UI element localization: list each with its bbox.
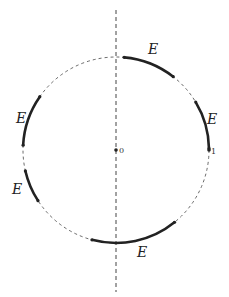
- arc-endpoint: [90, 238, 93, 241]
- arc-segment: [124, 57, 173, 76]
- arc-label-E: E: [15, 110, 26, 126]
- arc-endpoint: [22, 144, 25, 147]
- arc-label-E: E: [136, 244, 147, 260]
- arc-endpoint: [123, 56, 126, 59]
- arc-endpoint: [173, 221, 176, 224]
- circle-diagram: 0 1 EEEEE: [0, 0, 229, 297]
- arc-endpoint: [194, 101, 197, 104]
- arc-endpoint: [38, 95, 41, 98]
- arc-endpoint: [24, 169, 27, 172]
- arc-segment: [92, 222, 175, 243]
- unit-label: 1: [211, 147, 216, 156]
- arc-endpoint: [172, 75, 175, 78]
- arc-label-E: E: [147, 41, 158, 57]
- arc-label-E: E: [11, 181, 22, 197]
- origin-label: 0: [119, 146, 124, 155]
- arc-segment: [25, 171, 38, 201]
- arc-label-E: E: [206, 111, 217, 127]
- arc-endpoint: [36, 199, 39, 202]
- origin-point: [114, 148, 118, 152]
